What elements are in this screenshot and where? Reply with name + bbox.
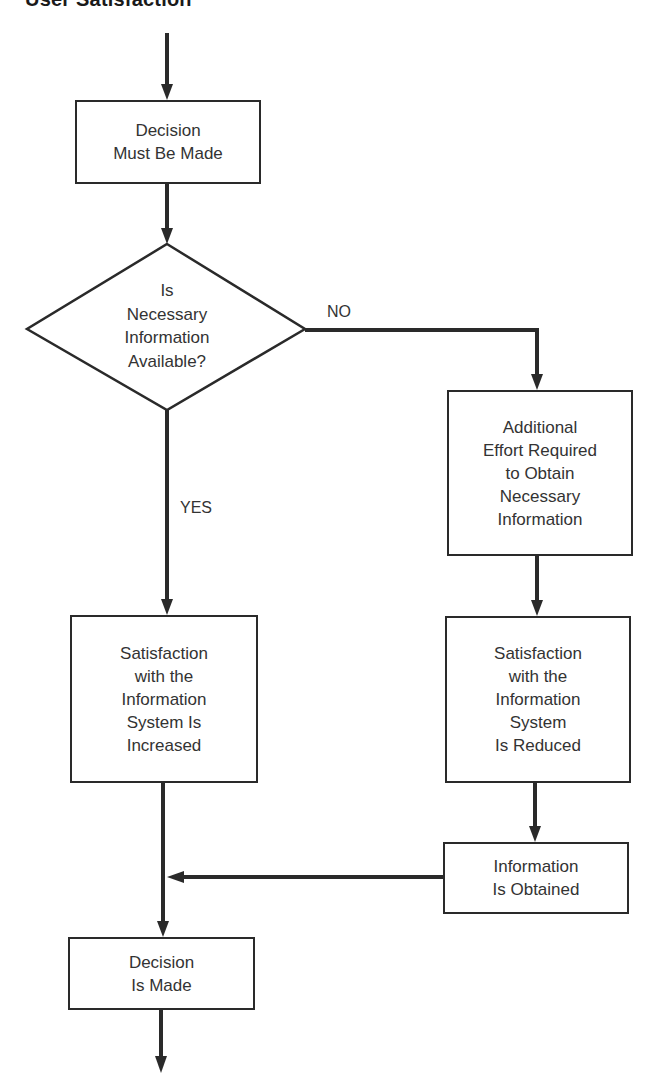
reduced-box-text: Satisfaction with the Information System… [494, 642, 582, 757]
yes-label: YES [180, 499, 212, 517]
increased-box: Satisfaction with the Information System… [70, 615, 258, 783]
effort-box: Additional Effort Required to Obtain Nec… [447, 390, 633, 556]
obtained-box: Information Is Obtained [443, 842, 629, 914]
reduced-box: Satisfaction with the Information System… [445, 616, 631, 783]
start-box-text: Decision Must Be Made [113, 119, 223, 165]
no-branch-line [305, 330, 537, 376]
effort-box-text: Additional Effort Required to Obtain Nec… [483, 416, 597, 531]
increased-box-text: Satisfaction with the Information System… [120, 642, 208, 757]
decision-text: Is Necessary Information Available? [97, 279, 237, 373]
end-box-text: Decision Is Made [129, 951, 194, 997]
no-label: NO [327, 303, 351, 321]
obtained-box-text: Information Is Obtained [493, 855, 580, 901]
end-box: Decision Is Made [68, 937, 255, 1010]
start-box: Decision Must Be Made [75, 100, 261, 184]
